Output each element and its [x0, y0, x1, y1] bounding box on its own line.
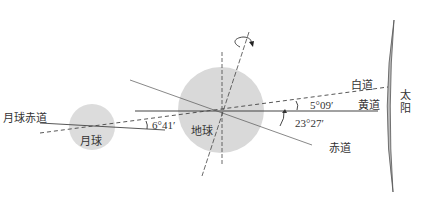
earth-body [178, 67, 264, 153]
angle-arc-5-09 [296, 101, 298, 110]
moon-equator-label: 月球赤道 [3, 111, 47, 125]
sun-label-line1: 太 [400, 89, 411, 102]
sun-limb [387, 20, 394, 192]
angle-arc-6-41 [146, 121, 147, 129]
white-path-label: 白道 [351, 78, 373, 92]
angle-label-23-27: 23°27′ [295, 117, 324, 129]
moon-label: 月球 [80, 134, 102, 148]
angle-arc-23-27 [280, 111, 284, 126]
angle-label-5-09: 5°09′ [310, 99, 333, 111]
sun-label-line2: 阳 [400, 102, 411, 115]
angle-label-6-41: 6°41′ [152, 119, 175, 131]
earth-label: 地球 [191, 124, 213, 138]
moon-earth-sun-diagram: 月球赤道 月球 地球 白道 黄道 赤道 太 阳 6°41′ 5°09′ 23°2… [0, 0, 429, 202]
ecliptic-label: 黄道 [358, 98, 380, 112]
celestial-equator-label: 赤道 [329, 141, 351, 155]
